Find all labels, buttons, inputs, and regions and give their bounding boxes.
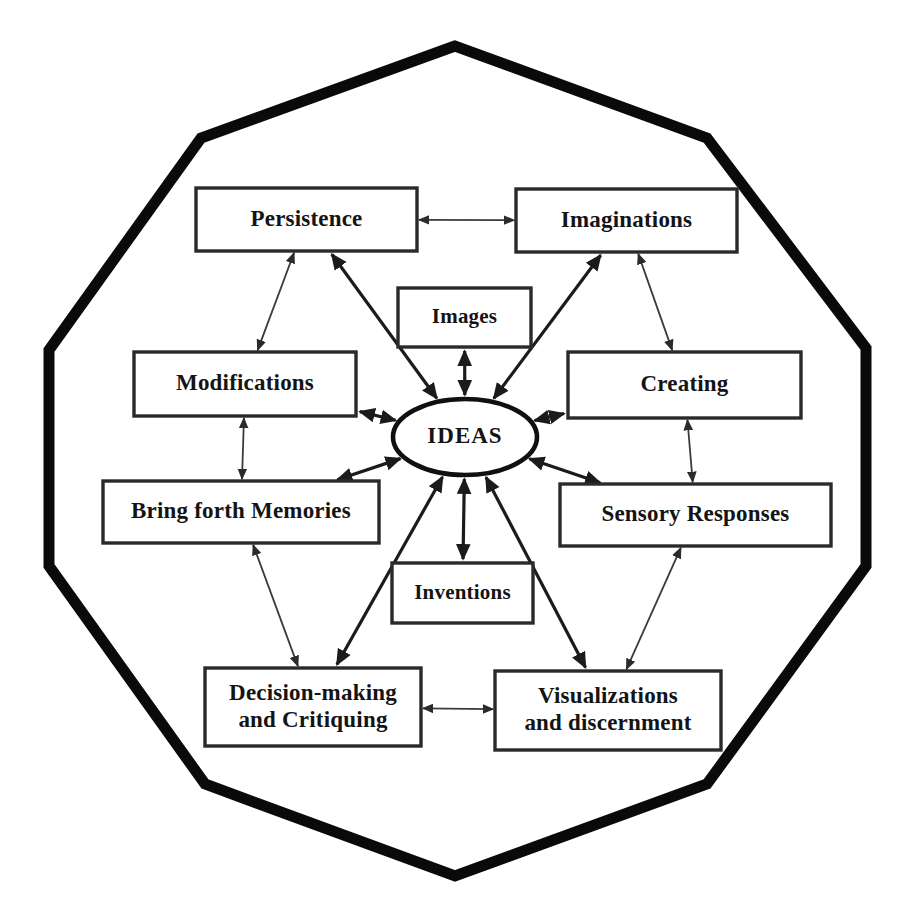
node-sensory[interactable]: Sensory Responses (560, 484, 831, 546)
node-label-imaginations: Imaginations (561, 207, 692, 232)
node-label-images: Images (432, 304, 497, 328)
node-persistence[interactable]: Persistence (196, 188, 417, 251)
node-label-decision: and Critiquing (238, 707, 387, 732)
node-label-memories: Bring forth Memories (131, 498, 351, 523)
ideas-concept-diagram: PersistenceImaginationsImagesModificatio… (0, 0, 923, 911)
node-label-modifications: Modifications (176, 370, 314, 395)
node-creating[interactable]: Creating (568, 352, 801, 418)
spoke-inventions-to-center (463, 479, 464, 559)
node-visualizations[interactable]: Visualizationsand discernment (495, 671, 721, 750)
center-node-layer: IDEAS (393, 399, 537, 475)
node-label-decision: Decision-making (229, 680, 397, 705)
node-label-visualizations: and discernment (524, 710, 691, 735)
node-label-creating: Creating (640, 371, 728, 396)
ring-link-visualizations-decision (423, 708, 493, 709)
node-memories[interactable]: Bring forth Memories (103, 481, 379, 543)
node-images[interactable]: Images (398, 288, 531, 347)
node-label-inventions: Inventions (414, 580, 511, 604)
node-label-visualizations: Visualizations (538, 683, 678, 708)
diagram-canvas: PersistenceImaginationsImagesModificatio… (0, 0, 923, 911)
node-inventions[interactable]: Inventions (392, 563, 533, 623)
node-label-sensory: Sensory Responses (601, 501, 789, 526)
center-node-label: IDEAS (427, 423, 502, 448)
node-modifications[interactable]: Modifications (134, 352, 356, 416)
node-label-persistence: Persistence (250, 206, 362, 231)
node-imaginations[interactable]: Imaginations (516, 189, 737, 252)
node-decision[interactable]: Decision-makingand Critiquing (205, 668, 421, 746)
